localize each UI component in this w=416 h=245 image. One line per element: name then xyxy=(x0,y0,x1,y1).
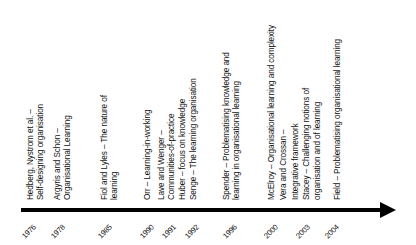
year-label: 2004 xyxy=(323,223,341,241)
entry-text: Fiol and Lyles – The nature of xyxy=(100,95,110,200)
arrow-head-icon xyxy=(380,202,396,218)
year-label: 1985 xyxy=(96,223,114,241)
entry-text: learning in organisational learning xyxy=(232,81,242,200)
timeline-axis xyxy=(21,208,383,212)
entry-text: Self-designing organisation xyxy=(36,104,46,200)
year-label: 1992 xyxy=(183,223,201,241)
year-label: 1991 xyxy=(160,223,178,241)
entry-text: Integrative framework xyxy=(291,123,301,200)
entry-text: Orr – Learning-in-working xyxy=(143,110,153,200)
entry-text: Organisational Learning xyxy=(63,115,73,200)
entry-text: Lave and Wenger – xyxy=(157,130,167,200)
entry-text: Stacey – Challenging notions of xyxy=(302,88,312,200)
entry-text: Huber – focus on knowledge xyxy=(178,99,188,200)
year-label: 1978 xyxy=(49,223,67,241)
entry-text: Hedberg, Nystrom et al. – xyxy=(26,109,36,200)
entry-text: organisation and of learning xyxy=(313,102,323,200)
year-label: 1976 xyxy=(20,223,38,241)
entry-text: Spender – Problematising knowledge and xyxy=(222,52,232,200)
year-label: 2000 xyxy=(262,223,280,241)
year-label: 1990 xyxy=(138,223,156,241)
entry-text: learning xyxy=(110,172,120,200)
entry-text: Vera and Crossan – xyxy=(279,129,289,200)
entry-text: Communities-of-practice xyxy=(167,114,177,200)
entry-text: Field – Problematising organisational le… xyxy=(333,39,343,200)
year-label: 2003 xyxy=(294,223,312,241)
year-label: 1996 xyxy=(221,223,239,241)
entry-text: McElroy – Organisational learning and co… xyxy=(267,25,277,200)
entry-text: Argyris and Schon – xyxy=(53,128,63,200)
organisational-learning-timeline: Hedberg, Nystrom et al. – Self-designing… xyxy=(0,0,416,245)
entry-text: Senge – The learning organisation xyxy=(189,78,199,200)
